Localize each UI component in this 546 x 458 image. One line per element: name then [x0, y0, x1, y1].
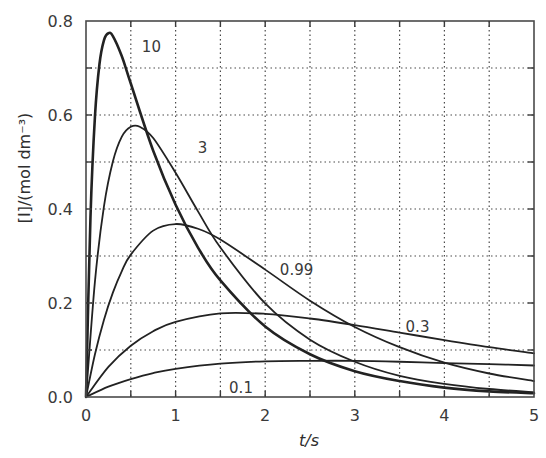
- x-axis-label: t/s: [299, 431, 319, 450]
- x-tick-labels: 012345: [81, 406, 539, 425]
- y-tick-label: 0.2: [48, 294, 73, 313]
- y-axis-label: [I]/(mol dm⁻³): [15, 113, 34, 224]
- y-tick-label: 0.6: [48, 106, 73, 125]
- curve-label: 0.1: [229, 379, 253, 397]
- y-tick-label: 0.4: [48, 200, 73, 219]
- x-tick-label: 1: [171, 406, 181, 425]
- x-tick-label: 0: [81, 406, 91, 425]
- y-tick-labels: 0.00.20.40.60.8: [48, 12, 73, 407]
- x-tick-label: 2: [260, 406, 270, 425]
- curve-0p99: [86, 224, 534, 397]
- y-tick-label: 0.0: [48, 388, 73, 407]
- x-tick-label: 3: [350, 406, 360, 425]
- curve-label: 10: [142, 38, 161, 56]
- curve-label: 0.99: [280, 261, 313, 279]
- curve-label: 3: [198, 139, 208, 157]
- y-tick-label: 0.8: [48, 12, 73, 31]
- curve-labels: 1030.990.30.1: [142, 38, 430, 397]
- x-tick-label: 4: [439, 406, 449, 425]
- chart: 012345 0.00.20.40.60.8 1030.990.30.1 t/s…: [0, 0, 546, 458]
- x-tick-label: 5: [529, 406, 539, 425]
- curve-label: 0.3: [406, 318, 430, 336]
